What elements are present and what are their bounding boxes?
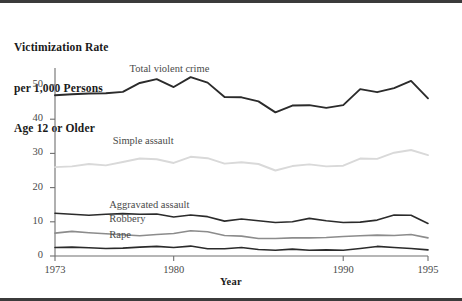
y-tick-label: 10 <box>17 215 43 226</box>
y-tick-label: 50 <box>17 78 43 89</box>
x-tick-label: 1973 <box>35 264 75 275</box>
line-chart-plot <box>0 0 462 301</box>
y-tick-label: 30 <box>17 146 43 157</box>
series-line <box>55 77 428 112</box>
x-tick-label: 1995 <box>408 264 448 275</box>
y-tick-label: 20 <box>17 181 43 192</box>
series-line <box>55 150 428 171</box>
x-axis-title: Year <box>0 276 462 287</box>
series-label: Aggravated assault <box>109 199 189 210</box>
y-tick-label: 40 <box>17 112 43 123</box>
series-line <box>55 246 428 250</box>
series-label: Total violent crime <box>130 63 210 74</box>
series-label: Simple assault <box>113 135 174 146</box>
series-group <box>55 77 428 250</box>
x-tick-label: 1990 <box>323 264 363 275</box>
series-label: Robbery <box>109 213 145 224</box>
figure-canvas: Victimization Rate per 1,000 Persons Age… <box>0 0 462 301</box>
y-tick-label: 0 <box>17 249 43 260</box>
series-label: Rape <box>109 229 131 240</box>
x-tick-label: 1980 <box>154 264 194 275</box>
